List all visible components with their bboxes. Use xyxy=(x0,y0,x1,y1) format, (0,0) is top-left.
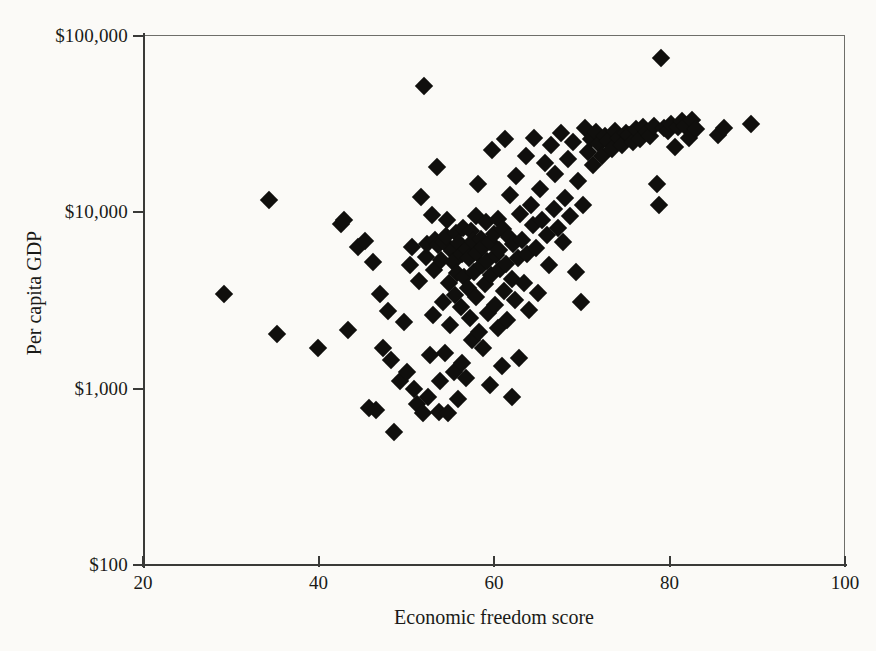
scatter-point xyxy=(437,227,455,245)
y-axis-tick-label-wrap: $1,000 xyxy=(0,379,128,398)
x-axis-tick-label: 40 xyxy=(284,572,354,594)
scatter-point xyxy=(453,354,471,372)
scatter-point xyxy=(572,293,590,311)
x-axis-tick-label: 20 xyxy=(108,572,178,594)
scatter-point xyxy=(501,186,519,204)
scatter-point xyxy=(522,196,540,214)
scatter-point xyxy=(506,290,524,308)
scatter-point xyxy=(459,249,477,267)
scatter-point xyxy=(458,240,476,258)
scatter-point xyxy=(566,263,584,281)
scatter-point xyxy=(391,372,409,390)
scatter-point xyxy=(415,77,433,95)
x-axis-tick-label: 60 xyxy=(459,572,529,594)
scatter-point xyxy=(451,298,469,316)
scatter-point xyxy=(431,372,449,390)
scatter-point xyxy=(491,259,509,277)
scatter-point xyxy=(500,228,518,246)
scatter-point xyxy=(416,248,434,266)
scatter-point xyxy=(463,330,481,348)
scatter-point xyxy=(662,115,680,133)
scatter-point xyxy=(444,253,462,271)
scatter-point xyxy=(474,237,492,255)
y-axis-tick-label: $100,000 xyxy=(10,26,128,45)
scatter-point xyxy=(634,118,652,136)
scatter-point xyxy=(709,126,727,144)
scatter-point xyxy=(476,275,494,293)
scatter-point xyxy=(461,309,479,327)
scatter-point xyxy=(507,167,525,185)
scatter-point xyxy=(489,319,507,337)
scatter-point xyxy=(498,311,516,329)
scatter-point xyxy=(503,388,521,406)
y-axis-title: Per capita GDP xyxy=(23,163,45,423)
scatter-point xyxy=(379,302,397,320)
scatter-point xyxy=(449,390,467,408)
scatter-point xyxy=(655,119,673,137)
scatter-point xyxy=(595,127,613,145)
scatter-point xyxy=(533,211,551,229)
scatter-point xyxy=(440,273,458,291)
scatter-point xyxy=(551,124,569,142)
scatter-point xyxy=(423,306,441,324)
scatter-point xyxy=(584,156,602,174)
scatter-point xyxy=(666,138,684,156)
scatter-point xyxy=(487,246,505,264)
scatter-point xyxy=(497,255,515,273)
scatter-point xyxy=(477,213,495,231)
scatter-point xyxy=(648,175,666,193)
scatter-point xyxy=(581,130,599,148)
scatter-point xyxy=(472,229,490,247)
scatter-point xyxy=(421,346,439,364)
scatter-point xyxy=(448,264,466,282)
scatter-point xyxy=(478,252,496,270)
scatter-point xyxy=(623,133,641,151)
scatter-point xyxy=(485,225,503,243)
scatter-point xyxy=(546,165,564,183)
scatter-point xyxy=(645,116,663,134)
scatter-point xyxy=(308,339,326,357)
scatter-point xyxy=(469,175,487,193)
scatter-point xyxy=(540,256,558,274)
scatter-point xyxy=(339,321,357,339)
scatter-point xyxy=(450,234,468,252)
scatter-point xyxy=(609,128,627,146)
scatter-point xyxy=(641,127,659,145)
scatter-point xyxy=(559,150,577,168)
scatter-point xyxy=(650,196,668,214)
scatter-point xyxy=(513,230,531,248)
scatter-point xyxy=(480,233,498,251)
scatter-point xyxy=(715,119,733,137)
scatter-point xyxy=(573,196,591,214)
scatter-point xyxy=(441,316,459,334)
scatter-point xyxy=(516,146,534,164)
scatter-point xyxy=(418,235,436,253)
scatter-point xyxy=(564,133,582,151)
scatter-point xyxy=(408,395,426,413)
scatter-point xyxy=(260,190,278,208)
scatter-point xyxy=(401,256,419,274)
scatter-point xyxy=(613,136,631,154)
scatter-point xyxy=(419,388,437,406)
scatter-point xyxy=(680,128,698,146)
scatter-point xyxy=(616,124,634,142)
scatter-point xyxy=(537,226,555,244)
scatter-point xyxy=(385,423,403,441)
scatter-point xyxy=(511,205,529,223)
scatter-point xyxy=(422,206,440,224)
scatter-point xyxy=(426,230,444,248)
scatter-point xyxy=(599,131,617,149)
scatter-point xyxy=(414,404,432,422)
scatter-point xyxy=(544,199,562,217)
scatter-point xyxy=(542,136,560,154)
scatter-point xyxy=(462,222,480,240)
scatter-point xyxy=(444,362,462,380)
scatter-point xyxy=(398,362,416,380)
scatter-point xyxy=(432,250,450,268)
scatter-point xyxy=(525,128,543,146)
scatter-point xyxy=(335,211,353,229)
scatter-point xyxy=(454,218,472,236)
scatter-point xyxy=(530,180,548,198)
scatter-point xyxy=(382,351,400,369)
scatter-point xyxy=(482,266,500,284)
